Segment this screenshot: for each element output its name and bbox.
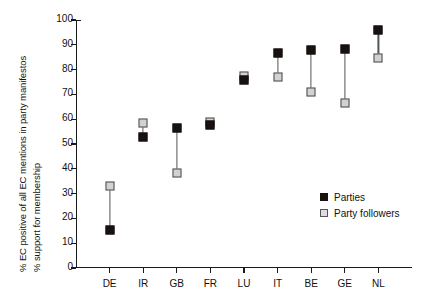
data-point-parties-de (105, 225, 114, 234)
data-point-parties-gb (172, 123, 181, 132)
data-point-parties-ge (340, 44, 349, 53)
y-axis-tick-label: 60 (62, 112, 73, 124)
connector-line-ge (344, 49, 345, 104)
legend-swatch-parties-icon (320, 193, 328, 201)
x-axis-tick-label-it: IT (273, 278, 282, 290)
y-axis-tick-label: 70 (62, 87, 73, 99)
y-axis-tick-label: 40 (62, 162, 73, 174)
x-axis-tick (143, 268, 144, 273)
data-point-party-followers-ge (340, 99, 349, 108)
data-point-party-followers-it (273, 73, 282, 82)
y-axis-title: % EC positive of all EC mentions in part… (0, 0, 46, 280)
y-axis-title-line-1: % EC positive of all EC mentions in part… (17, 56, 28, 272)
x-axis-tick (176, 268, 177, 273)
y-axis-title-line-2: % support for membership (31, 163, 42, 272)
legend-item-parties: Parties (320, 190, 400, 204)
x-axis-tick-label-ir: IR (138, 278, 148, 290)
x-axis-tick-label-ge: GE (338, 278, 352, 290)
legend-swatch-party-followers-icon (320, 209, 328, 217)
x-axis-tick-label-de: DE (103, 278, 117, 290)
x-axis-tick-label-be: BE (305, 278, 318, 290)
x-axis-tick (109, 268, 110, 273)
data-point-party-followers-ir (139, 118, 148, 127)
chart-legend: Parties Party followers (320, 190, 400, 222)
plot-area: 0102030405060708090100 DEIRGBFRLUITBEGEN… (76, 20, 412, 268)
y-axis-tick-label: 20 (62, 211, 73, 223)
x-axis-tick (243, 268, 244, 273)
x-axis-tick-label-fr: FR (204, 278, 217, 290)
data-point-party-followers-de (105, 182, 114, 191)
connector-line-gb (176, 128, 177, 173)
y-axis-tick-label: 0 (67, 261, 73, 273)
data-point-party-followers-gb (172, 168, 181, 177)
x-axis-tick (277, 268, 278, 273)
x-axis-tick (311, 268, 312, 273)
x-axis-tick (378, 268, 379, 273)
x-axis-tick (344, 268, 345, 273)
y-axis-tick-label: 90 (62, 38, 73, 50)
data-point-parties-lu (240, 75, 249, 84)
data-point-party-followers-be (307, 87, 316, 96)
data-point-parties-be (307, 45, 316, 54)
data-point-parties-ir (139, 132, 148, 141)
connector-line-be (311, 50, 312, 92)
data-point-parties-nl (374, 25, 383, 34)
legend-label-parties: Parties (334, 192, 365, 203)
y-axis-tick-label: 100 (56, 13, 73, 25)
x-axis-tick (210, 268, 211, 273)
y-axis-tick-label: 10 (62, 236, 73, 248)
x-axis-tick-label-lu: LU (238, 278, 251, 290)
connector-line-de (109, 186, 110, 229)
data-point-parties-it (273, 49, 282, 58)
data-point-parties-fr (206, 121, 215, 130)
y-axis-tick-label: 50 (62, 137, 73, 149)
y-axis-tick-label: 30 (62, 187, 73, 199)
legend-label-party-followers: Party followers (334, 208, 400, 219)
x-axis-tick-label-nl: NL (372, 278, 385, 290)
y-axis-tick-label: 80 (62, 63, 73, 75)
chart-container: % EC positive of all EC mentions in part… (0, 0, 426, 307)
x-axis-tick-label-gb: GB (170, 278, 184, 290)
legend-item-party-followers: Party followers (320, 206, 400, 220)
data-point-party-followers-nl (374, 54, 383, 63)
y-axis-top-cap-tick (76, 20, 81, 21)
y-axis-line (76, 20, 77, 268)
